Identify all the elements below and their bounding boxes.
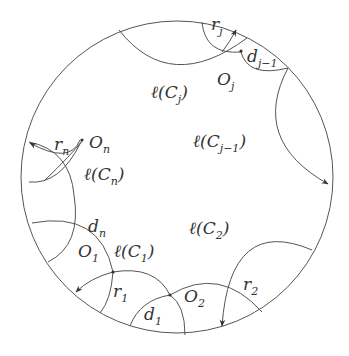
label-r-j: rj [211, 14, 223, 38]
point-O-2 [168, 293, 171, 296]
label-O-1: O1 [78, 241, 99, 265]
label-O-n: On [89, 132, 110, 156]
boundary-circle [21, 21, 333, 333]
label-r-2: r2 [243, 274, 258, 298]
label-O-2: O2 [184, 286, 205, 310]
point-O-1 [111, 270, 114, 273]
label-l-C-j: ℓ(Cj) [151, 82, 188, 106]
arrow-r-1 [76, 272, 113, 292]
point-O-j [239, 49, 242, 52]
point-O-n [80, 138, 83, 141]
arc-r-1-down [100, 272, 113, 313]
label-l-C-n: ℓ(Cn) [84, 164, 124, 188]
arc-l-Cj-minus-1 [276, 68, 328, 184]
label-d-1: d1 [144, 304, 162, 328]
label-d-n: dn [88, 216, 106, 240]
arc-l-Cj [119, 30, 247, 65]
label-l-C-2: ℓ(C2) [189, 218, 229, 242]
label-O-j: Oj [217, 69, 235, 93]
label-r-1: r1 [113, 281, 128, 305]
hyperbolic-disk-diagram: rj dj−1 Oj ℓ(Cj) ℓ(Cj−1) rn On ℓ(Cn) dn … [0, 0, 349, 356]
arrow-r-j [222, 30, 236, 52]
arrow-r-2 [222, 242, 312, 326]
label-l-C-j-minus-1: ℓ(Cj−1) [193, 131, 246, 155]
label-l-C-1: ℓ(C1) [114, 241, 154, 265]
